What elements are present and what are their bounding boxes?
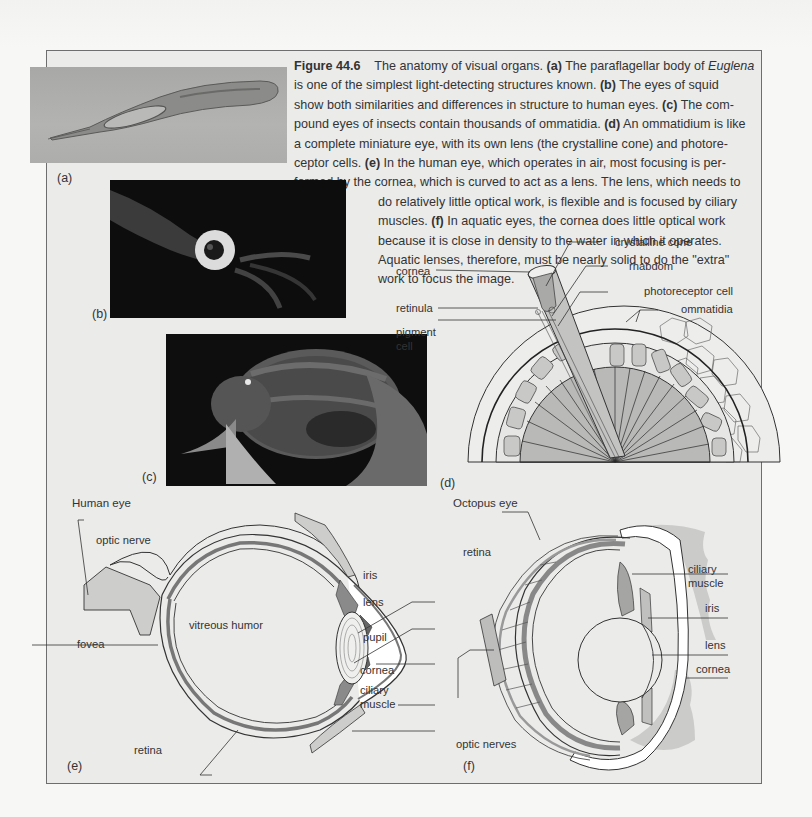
label-d-pigment-cell-1: pigment: [396, 326, 436, 339]
label-e-fovea: fovea: [77, 638, 104, 651]
label-d-photoreceptor-cell: photoreceptor cell: [644, 285, 733, 298]
panel-label-a: (a): [57, 171, 72, 185]
label-f-lens: lens: [705, 639, 726, 652]
label-f-retina: retina: [463, 546, 491, 559]
caption-line: a complete miniature eye, with its own l…: [294, 135, 764, 154]
label-f-iris: iris: [705, 602, 719, 615]
label-e-vitreous-humor: vitreous humor: [189, 619, 263, 632]
label-e-pupil: pupil: [363, 631, 387, 644]
label-e-optic-nerve: optic nerve: [96, 534, 151, 547]
panel-label-c: (c): [142, 470, 157, 484]
label-d-pigment-cell-2: cell: [396, 340, 413, 353]
label-e-lens: lens: [363, 596, 384, 609]
label-f-cornea: cornea: [696, 663, 730, 676]
caption-line: is one of the simplest light-detecting s…: [294, 76, 764, 95]
caption-line: muscles. (f) In aquatic eyes, the cornea…: [294, 212, 764, 231]
label-e-iris: iris: [363, 569, 377, 582]
label-d-retinula: retinula: [396, 302, 433, 315]
panel-label-d: (d): [440, 476, 455, 490]
label-f-optic-nerves: optic nerves: [456, 738, 516, 751]
label-e-ciliary-1: ciliary: [360, 684, 389, 697]
label-e-ciliary-2: muscle: [360, 698, 395, 711]
ommatidium-diagram: [460, 286, 780, 486]
label-d-rhabdom: rhabdom: [629, 260, 673, 273]
label-d-ommatidia: ommatidia: [681, 303, 733, 316]
panel-label-f: (f): [463, 759, 475, 773]
panel-label-e: (e): [67, 759, 82, 773]
figure-caption: Figure 44.6 The anatomy of visual organs…: [294, 57, 764, 290]
caption-line: Aquatic lenses, therefore, must be nearl…: [294, 251, 764, 270]
label-e-cornea: cornea: [360, 664, 394, 677]
label-f-ciliary-2: muscle: [688, 577, 723, 590]
euglena-photo: [30, 67, 287, 163]
caption-line: ceptor cells. (e) In the human eye, whic…: [294, 154, 764, 173]
caption-line: Figure 44.6 The anatomy of visual organs…: [294, 57, 764, 76]
squid-photo: [110, 180, 346, 318]
page-bleed-through: [0, 0, 812, 48]
label-d-cornea: cornea: [396, 265, 430, 278]
caption-line: because it is close in density to the wa…: [294, 232, 764, 251]
caption-line: do relatively little optical work, is fl…: [294, 193, 764, 212]
label-d-crystalline-cone: crystalline cone: [615, 236, 692, 249]
panel-label-b: (b): [92, 307, 107, 321]
caption-line: formed by the cornea, which is curved to…: [294, 173, 764, 192]
caption-line: pound eyes of insects contain thousands …: [294, 115, 764, 134]
fly-compound-eye-photo: [166, 334, 427, 486]
label-f-ciliary-1: ciliary: [688, 563, 717, 576]
octopus-eye-title: Octopus eye: [453, 497, 518, 509]
caption-line: show both similarities and differences i…: [294, 96, 764, 115]
label-e-retina: retina: [134, 744, 162, 757]
